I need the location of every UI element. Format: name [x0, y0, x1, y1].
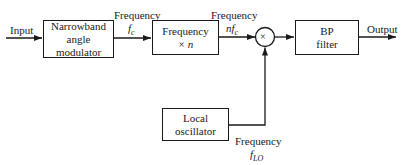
block-label-line1: Narrowband — [51, 20, 106, 33]
signal-flo-label: Frequency — [235, 135, 281, 147]
block-label-line2: filter — [316, 38, 337, 51]
signal-nfc-label: Frequency — [211, 9, 257, 21]
block-label-line1: Frequency — [162, 25, 208, 38]
mixer-symbol: × — [260, 31, 266, 43]
signal-nfc-value: nfc — [226, 22, 238, 39]
block-label-line2: oscillator — [175, 125, 216, 138]
block-label-line1: BP — [320, 25, 333, 38]
local-oscillator-block: Local oscillator — [162, 108, 229, 141]
block-label-line1: Local — [183, 112, 208, 125]
bp-filter-block: BP filter — [295, 20, 359, 55]
frequency-multiplier-block: Frequency × n — [152, 20, 219, 55]
narrowband-angle-modulator-block: Narrowband angle modulator — [43, 20, 114, 58]
output-label: Output — [367, 23, 398, 35]
signal-fc-value: fc — [128, 22, 135, 39]
block-label-line2: angle modulator — [44, 33, 113, 59]
signal-flo-value: fLO — [250, 148, 263, 165]
block-label-line2: × n — [178, 38, 194, 51]
input-label: Input — [10, 24, 33, 36]
